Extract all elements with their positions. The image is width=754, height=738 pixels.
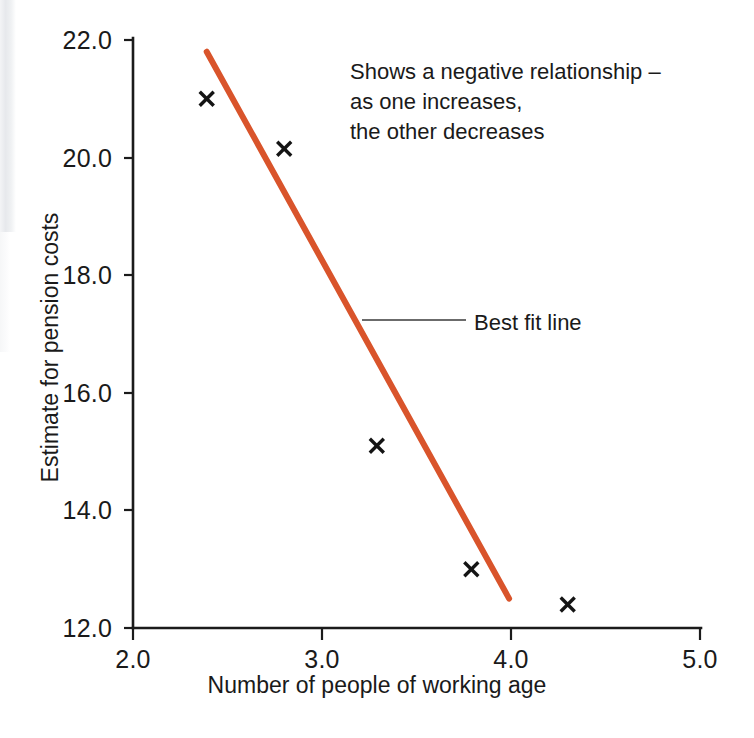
data-point-markers <box>200 92 575 612</box>
scatter-chart-figure: 12.0 14.0 16.0 18.0 20.0 22.0 2.0 3.0 4.… <box>0 0 754 738</box>
y-tick-label-12: 12.0 <box>0 614 112 643</box>
annotation-line-2: as one increases, <box>350 87 661 117</box>
annotation-line-1: Shows a negative relationship – <box>350 57 661 87</box>
x-tick-label-5: 5.0 <box>682 645 717 674</box>
y-tick-label-22: 22.0 <box>0 26 112 55</box>
y-axis-ticks <box>124 40 133 628</box>
data-point-marker <box>277 142 291 156</box>
x-tick-label-4: 4.0 <box>493 645 528 674</box>
x-axis-ticks <box>133 628 700 640</box>
x-tick-label-2: 2.0 <box>115 645 150 674</box>
relationship-annotation: Shows a negative relationship – as one i… <box>350 57 661 147</box>
best-fit-line-label: Best fit line <box>474 310 582 336</box>
y-axis-title: Estimate for pension costs <box>37 138 64 558</box>
x-axis-title: Number of people of working age <box>0 672 754 699</box>
data-point-marker <box>200 92 214 106</box>
data-point-marker <box>370 439 384 453</box>
annotation-line-3: the other decreases <box>350 117 661 147</box>
data-point-marker <box>561 597 575 611</box>
data-point-marker <box>464 562 478 576</box>
x-tick-label-3: 3.0 <box>304 645 339 674</box>
